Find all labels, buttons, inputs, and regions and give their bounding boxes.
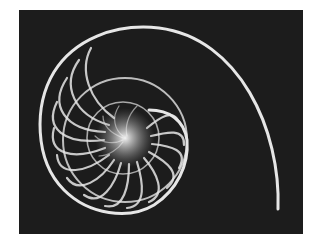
shell-core-glow	[95, 108, 155, 168]
nautilus-shell-illustration	[19, 10, 303, 234]
nautilus-xray-photo	[19, 10, 303, 234]
